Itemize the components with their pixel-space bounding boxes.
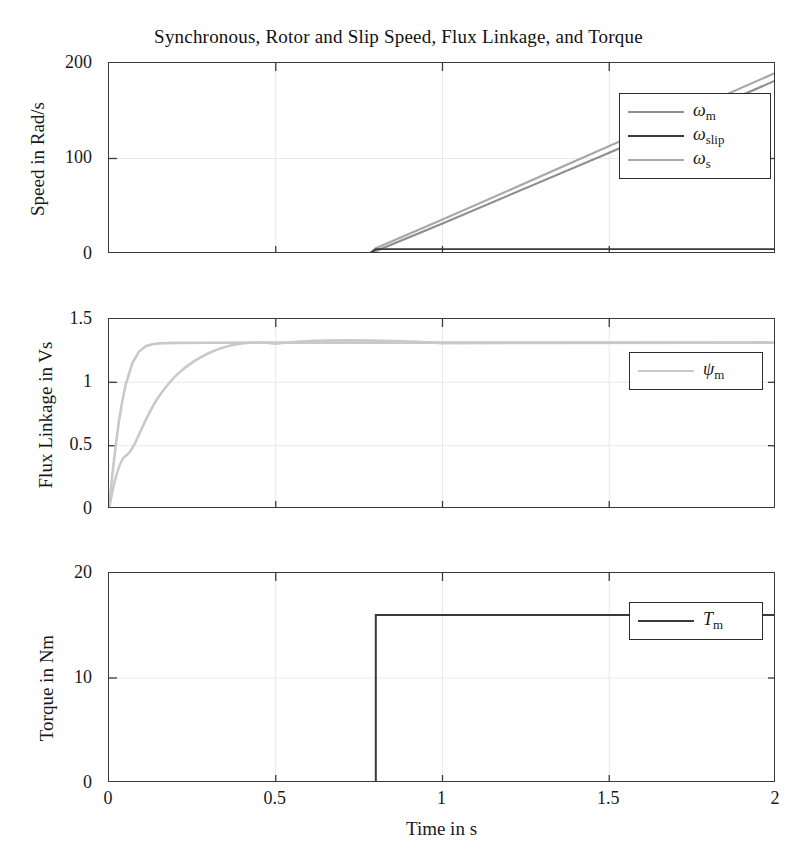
legend-swatch-omega-m xyxy=(628,111,684,113)
x-tick-1: 1 xyxy=(437,788,446,809)
legend-label-omega-s: ωs xyxy=(693,149,711,171)
x-tick-2: 2 xyxy=(771,788,780,809)
legend-item-psi-m: ψm xyxy=(638,359,752,383)
legend-item-omega-s: ωs xyxy=(628,148,760,172)
x-tick-05: 0.5 xyxy=(264,788,287,809)
y-tick-torque-20: 20 xyxy=(30,562,92,583)
y-tick-torque-10: 10 xyxy=(30,667,92,688)
legend-label-omega-slip: ωslip xyxy=(693,125,724,147)
y-tick-torque-0: 0 xyxy=(30,772,92,793)
legend-swatch-psi-m xyxy=(638,370,694,372)
legend-label-tm: Tm xyxy=(703,610,723,632)
legend-flux: ψm xyxy=(629,352,763,390)
x-tick-0: 0 xyxy=(104,788,113,809)
y-axis-label-torque: Torque in Nm xyxy=(36,588,58,788)
legend-label-omega-m: ωm xyxy=(693,101,716,123)
x-axis-label: Time in s xyxy=(108,818,775,840)
legend-item-tm: Tm xyxy=(638,609,752,633)
legend-swatch-tm xyxy=(638,620,694,622)
figure-root: Synchronous, Rotor and Slip Speed, Flux … xyxy=(0,0,797,861)
legend-torque: Tm xyxy=(629,602,763,640)
legend-swatch-omega-slip xyxy=(628,135,684,137)
legend-item-omega-slip: ωslip xyxy=(628,124,760,148)
legend-item-omega-m: ωm xyxy=(628,100,760,124)
legend-speed: ωm ωslip ωs xyxy=(619,93,771,179)
x-tick-15: 1.5 xyxy=(597,788,620,809)
legend-swatch-omega-s xyxy=(628,159,684,161)
legend-label-psi-m: ψm xyxy=(703,360,724,382)
